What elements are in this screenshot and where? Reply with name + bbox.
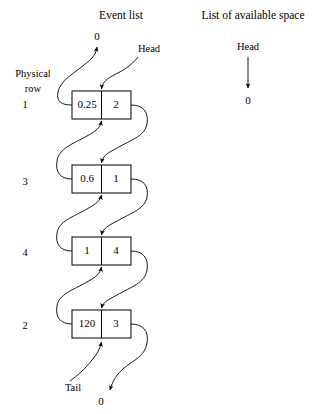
node-box-3 [72,237,131,265]
tail-label: Tail [65,383,81,394]
row-number-2: 3 [22,177,27,188]
available-space-title: List of available space [201,10,304,22]
node-2-next-value: 1 [113,173,119,184]
row-number-3: 4 [22,248,27,259]
physical-row-label-line2: row [25,84,41,95]
null-bottom-value: 0 [98,396,104,407]
node-3-next-value: 4 [113,245,119,256]
head-pointer-arrow [102,57,139,89]
diagram-canvas [0,0,317,414]
row-number-4: 2 [22,321,27,332]
node-3-time-value: 1 [84,245,90,256]
row-number-1: 1 [22,100,27,111]
node-1-next-value: 2 [113,99,119,110]
node-4-next-value: 3 [113,318,119,329]
head-label: Head [138,44,160,55]
available-head-label: Head [237,42,259,53]
null-top-value: 0 [94,31,100,42]
linked-list-diagram: Event list List of available space Physi… [0,0,317,414]
event-list-title: Event list [99,10,143,22]
node-1-time-value: 0.25 [77,99,96,110]
available-null-value: 0 [245,95,251,106]
physical-row-label-line1: Physical [15,69,51,80]
node-2-time-value: 0.6 [80,173,94,184]
tail-pointer-arrow [70,342,102,381]
node-4-time-value: 120 [79,318,96,329]
